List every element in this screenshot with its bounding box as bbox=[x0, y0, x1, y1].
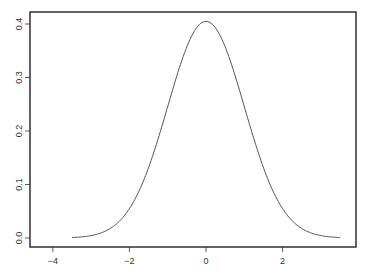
x-tick-label: 0 bbox=[203, 256, 208, 266]
density-curve bbox=[72, 21, 340, 237]
density-chart: −4−202 0.00.10.20.30.4 bbox=[0, 0, 371, 280]
y-tick-label: 0.2 bbox=[14, 125, 24, 138]
y-axis: 0.00.10.20.30.4 bbox=[14, 18, 30, 245]
x-tick-label: −2 bbox=[124, 256, 134, 266]
y-tick-label: 0.1 bbox=[14, 178, 24, 191]
y-tick-label: 0.3 bbox=[14, 71, 24, 84]
x-tick-label: 2 bbox=[280, 256, 285, 266]
plot-frame bbox=[30, 12, 356, 247]
x-tick-label: −4 bbox=[48, 256, 58, 266]
x-axis: −4−202 bbox=[48, 247, 285, 266]
y-tick-label: 0.0 bbox=[14, 232, 24, 245]
y-tick-label: 0.4 bbox=[14, 18, 24, 31]
